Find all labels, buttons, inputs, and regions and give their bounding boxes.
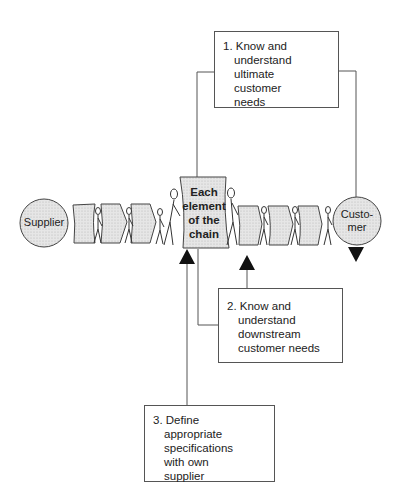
- box-line: downstream: [227, 327, 342, 341]
- box-line: needs: [223, 95, 338, 109]
- person-icon: [156, 209, 164, 245]
- box-line: appropriate: [153, 427, 274, 441]
- box-line: 2. Know and: [227, 299, 342, 313]
- box-line: specifications: [153, 441, 274, 455]
- box-line: customer needs: [227, 341, 342, 355]
- center-element-label: Each element of the chain: [178, 185, 230, 241]
- chain-elements-right: [238, 206, 322, 245]
- supplier-label: Supplier: [20, 216, 68, 229]
- arrow-up-downstream: [239, 255, 255, 270]
- box-know-downstream-customer-needs: 2. Know and understand downstream custom…: [218, 288, 343, 363]
- box-line: customer: [223, 81, 338, 95]
- box-line: understand: [227, 313, 342, 327]
- person-icon: [324, 207, 332, 246]
- person-icon: [94, 208, 102, 244]
- box-line: understand: [223, 53, 338, 67]
- center-line: Each: [190, 186, 218, 198]
- box-line: 3. Define: [153, 413, 274, 427]
- box-line: supplier: [153, 469, 274, 483]
- arrow-up-center: [179, 249, 195, 264]
- center-line: of the: [188, 214, 219, 226]
- box-define-specifications: 3. Define appropriate specifications wit…: [144, 405, 275, 482]
- center-line: element: [182, 200, 225, 212]
- chain-elements-left: [73, 204, 156, 243]
- customer-label-line1: Custo-: [341, 208, 373, 220]
- box-line: ultimate: [223, 67, 338, 81]
- box-line: with own: [153, 455, 274, 469]
- box-line: 1. Know and: [223, 39, 338, 53]
- arrowheads: [179, 247, 364, 270]
- arrow-down-customer: [348, 247, 364, 262]
- customer-label: Custo- mer: [333, 208, 381, 234]
- center-line: chain: [189, 228, 219, 240]
- customer-label-line2: mer: [348, 221, 367, 233]
- box-know-ultimate-customer-needs: 1. Know and understand ultimate customer…: [214, 31, 339, 108]
